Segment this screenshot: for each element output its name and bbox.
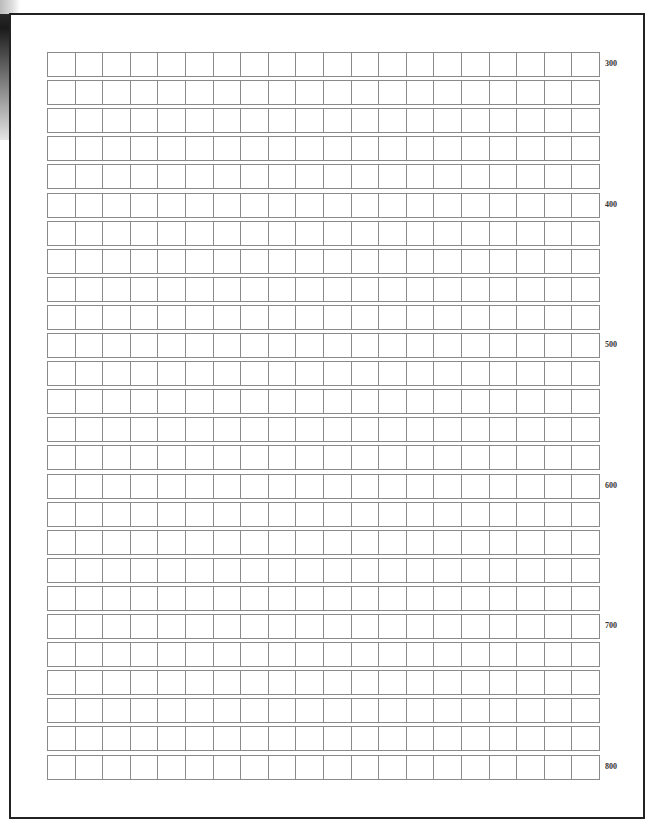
grid-row [47, 614, 600, 639]
grid-cell [572, 699, 599, 722]
grid-cell [490, 81, 518, 104]
grid-cell [214, 727, 242, 750]
grid-cell [241, 699, 269, 722]
grid-cell [324, 727, 352, 750]
grid-cell [131, 137, 159, 160]
grid-cell [48, 643, 76, 666]
grid-row [47, 698, 600, 723]
grid-row [47, 586, 600, 611]
grid-cell [158, 222, 186, 245]
grid-cell [545, 671, 573, 694]
grid-cell [517, 109, 545, 132]
grid-cell [186, 503, 214, 526]
grid-cell [241, 278, 269, 301]
grid-row [47, 136, 600, 161]
grid-cell [158, 250, 186, 273]
grid-cell [241, 559, 269, 582]
grid-cell [490, 137, 518, 160]
grid-row [47, 52, 600, 77]
grid-cell [158, 81, 186, 104]
grid-cell [324, 194, 352, 217]
grid-cell [490, 503, 518, 526]
grid-cell [131, 194, 159, 217]
grid-cell [131, 671, 159, 694]
grid-cell [490, 727, 518, 750]
grid-cell [296, 615, 324, 638]
grid-cell [48, 306, 76, 329]
grid-cell [158, 727, 186, 750]
grid-cell [462, 643, 490, 666]
grid-cell [324, 390, 352, 413]
grid-cell [48, 278, 76, 301]
grid-cell [186, 194, 214, 217]
grid-cell [186, 699, 214, 722]
row-count-label: 600 [605, 481, 617, 491]
grid-cell [572, 531, 599, 554]
grid-cell [352, 81, 380, 104]
grid-cell [434, 615, 462, 638]
grid-cell [214, 418, 242, 441]
grid-cell [131, 306, 159, 329]
grid-cell [572, 643, 599, 666]
grid-cell [158, 587, 186, 610]
grid-cell [379, 194, 407, 217]
grid-cell [269, 334, 297, 357]
grid-cell [379, 587, 407, 610]
grid-cell [407, 475, 435, 498]
grid-cell [324, 615, 352, 638]
grid-cell [131, 109, 159, 132]
grid-cell [407, 165, 435, 188]
grid-cell [158, 53, 186, 76]
grid-cell [572, 756, 599, 779]
grid-cell [434, 699, 462, 722]
grid-cell [103, 278, 131, 301]
grid-cell [186, 475, 214, 498]
grid-cell [214, 559, 242, 582]
grid-cell [131, 362, 159, 385]
grid-cell [407, 727, 435, 750]
grid-cell [296, 81, 324, 104]
grid-cell [269, 194, 297, 217]
grid-cell [407, 559, 435, 582]
grid-cell [214, 699, 242, 722]
grid-cell [407, 362, 435, 385]
grid-cell [352, 587, 380, 610]
grid-cell [462, 334, 490, 357]
grid-cell [214, 250, 242, 273]
grid-cell [545, 531, 573, 554]
grid-cell [462, 503, 490, 526]
page-corner-shadow [0, 0, 20, 14]
grid-cell [158, 756, 186, 779]
grid-cell [76, 446, 104, 469]
grid-cell [76, 418, 104, 441]
grid-cell [158, 559, 186, 582]
grid-cell [434, 222, 462, 245]
grid-cell [76, 559, 104, 582]
grid-cell [241, 615, 269, 638]
grid-cell [296, 643, 324, 666]
grid-cell [296, 727, 324, 750]
grid-cell [462, 278, 490, 301]
grid-cell [241, 531, 269, 554]
grid-cell [517, 615, 545, 638]
grid-cell [214, 306, 242, 329]
grid-row [47, 474, 600, 499]
grid-cell [76, 756, 104, 779]
grid-cell [434, 165, 462, 188]
grid-cell [103, 194, 131, 217]
grid-cell [103, 418, 131, 441]
grid-cell [48, 531, 76, 554]
grid-cell [545, 390, 573, 413]
grid-cell [103, 531, 131, 554]
grid-cell [214, 503, 242, 526]
grid-cell [269, 727, 297, 750]
grid-cell [103, 137, 131, 160]
grid-cell [48, 109, 76, 132]
grid-row [47, 221, 600, 246]
grid-cell [490, 418, 518, 441]
grid-cell [517, 165, 545, 188]
grid-cell [324, 559, 352, 582]
grid-cell [517, 362, 545, 385]
grid-cell [76, 222, 104, 245]
grid-cell [572, 250, 599, 273]
